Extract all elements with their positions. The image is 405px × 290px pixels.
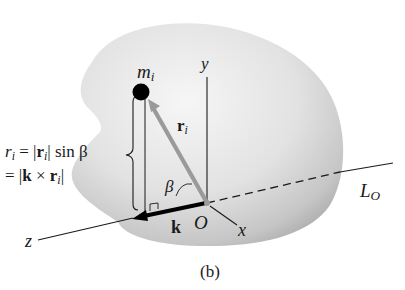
- axis-lo-solid: [340, 163, 393, 172]
- origin-label: O: [194, 213, 208, 232]
- position-vector-label: ri: [177, 117, 188, 137]
- x-axis-label: x: [238, 221, 246, 239]
- mass-label: mi: [137, 62, 154, 84]
- axis-lo-label: LO: [360, 181, 380, 203]
- z-axis-line: [38, 218, 133, 240]
- figure-caption: (b): [200, 263, 220, 280]
- formula-line-2: = |k × ri|: [5, 166, 88, 190]
- mass-point: [133, 84, 150, 101]
- y-axis-label: y: [201, 55, 209, 72]
- formula-line-1: ri = |ri| sin β: [5, 142, 88, 166]
- z-axis-label: z: [25, 232, 32, 250]
- perpendicular-distance-formula: ri = |ri| sin β = |k × ri|: [5, 142, 88, 190]
- unit-vector-k-label: k: [171, 218, 181, 236]
- angle-beta-label: β: [165, 178, 173, 195]
- origin-point: [204, 200, 210, 206]
